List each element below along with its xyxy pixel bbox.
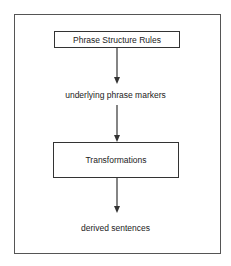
arrowhead-icon	[114, 135, 120, 142]
flow-arrows	[0, 0, 231, 266]
arrowhead-icon	[114, 206, 120, 213]
arrowhead-icon	[114, 77, 120, 84]
